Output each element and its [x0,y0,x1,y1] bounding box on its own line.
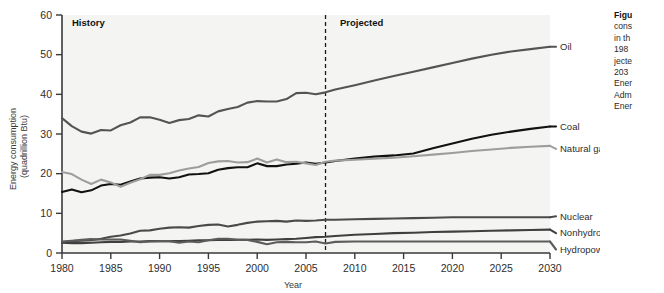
caption-line: 203 [614,67,664,78]
caption-line: Ener [614,78,664,89]
x-tick-label: 2025 [490,262,514,274]
y-axis-title-line1: Energy consumption [8,108,18,190]
caption-line: Figu [614,10,664,21]
x-tick-label: 1995 [197,262,221,274]
series-leader-nonhydro-renewables [550,230,556,234]
x-tick-label: 1985 [99,262,123,274]
chart-svg: 0102030405060 19801985199019952000200520… [0,0,600,293]
projected-label: Projected [340,17,383,28]
y-tick-label: 60 [40,9,52,21]
series-label-coal: Coal [560,121,580,132]
series-label-hydropower: Hydropower [560,244,600,255]
x-tick-label: 2015 [392,262,416,274]
y-tick-label: 40 [40,88,52,100]
y-tick-label: 10 [40,207,52,219]
series-leader-natural-gas [550,146,556,149]
series-label-nonhydro-renewables: Nonhydro renewables [560,227,600,238]
x-axis-ticks: 1980198519901995200020052010201520202025… [50,253,562,274]
caption-line: 198 [614,44,664,55]
caption-line: Ener [614,101,664,112]
caption-line: in th [614,33,664,44]
y-tick-label: 30 [40,128,52,140]
figure-root: 0102030405060 19801985199019952000200520… [0,0,664,293]
series-label-oil: Oil [560,41,572,52]
y-axis-title-line2: (quadrillion Btu) [19,115,29,178]
series-label-nuclear: Nuclear [560,211,593,222]
x-tick-label: 2030 [538,262,562,274]
y-axis-ticks: 0102030405060 [40,9,62,259]
x-tick-label: 2000 [246,262,270,274]
series-leader-nuclear [550,216,556,217]
x-tick-label: 1990 [148,262,172,274]
history-label: History [72,17,105,28]
series-label-natural-gas: Natural gas [560,143,600,154]
x-tick-label: 2020 [441,262,465,274]
energy-consumption-chart: 0102030405060 19801985199019952000200520… [0,0,600,293]
x-axis-title: Year [284,280,302,290]
y-tick-label: 50 [40,48,52,60]
caption-line: jecte [614,56,664,67]
x-tick-label: 2010 [343,262,367,274]
figure-caption: Figuconsin th198jecte203EnerAdmEner [614,10,664,113]
series-inline-labels: OilCoalNatural gasNuclearNonhydro renewa… [560,41,600,255]
y-tick-label: 0 [46,247,52,259]
x-tick-label: 1980 [50,262,74,274]
caption-line: cons [614,21,664,32]
series-leader-hydropower [550,241,556,249]
caption-line: Adm [614,90,664,101]
x-tick-label: 2005 [294,262,318,274]
y-tick-label: 20 [40,167,52,179]
